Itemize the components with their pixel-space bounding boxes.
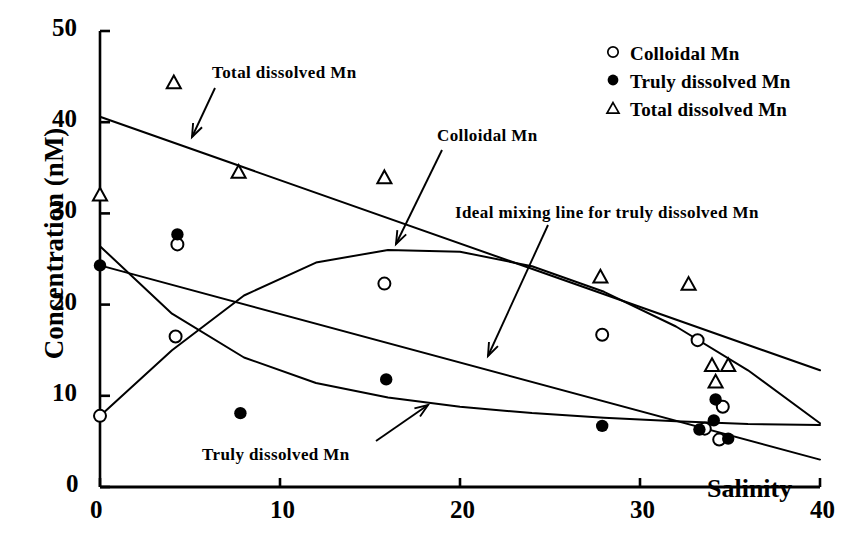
x-tick-label: 0 bbox=[90, 496, 103, 524]
data-point-filled-circle bbox=[709, 393, 721, 405]
open-circle-icon bbox=[596, 44, 630, 64]
data-point-open-triangle bbox=[682, 277, 696, 290]
data-point-filled-circle bbox=[94, 259, 106, 271]
data-point-open-triangle bbox=[709, 375, 723, 388]
y-axis-title: Concentration (nM) bbox=[39, 94, 70, 394]
data-point-open-circle bbox=[378, 278, 390, 290]
x-tick-label: 40 bbox=[810, 496, 835, 524]
data-point-filled-circle bbox=[708, 414, 720, 426]
fit-curve bbox=[100, 117, 820, 371]
legend-item-label: Colloidal Mn bbox=[630, 43, 740, 65]
fit-curves-layer bbox=[100, 117, 820, 460]
data-point-open-circle bbox=[596, 329, 608, 341]
y-tick-label: 20 bbox=[52, 288, 77, 316]
data-point-filled-circle bbox=[380, 373, 392, 385]
data-point-open-circle bbox=[94, 410, 106, 422]
legend-item: Truly dissolved Mn bbox=[596, 68, 791, 96]
x-axis-title: Salinity bbox=[707, 474, 792, 504]
x-tick-label: 20 bbox=[450, 496, 475, 524]
y-tick-label: 40 bbox=[52, 105, 77, 133]
data-point-open-triangle bbox=[93, 188, 107, 201]
y-tick-label: 0 bbox=[66, 470, 79, 498]
annotation-label: Truly dissolved Mn bbox=[202, 445, 350, 465]
annotation-arrow-line bbox=[376, 405, 428, 441]
chart-figure: Concentration (nM) Salinity 010203040010… bbox=[0, 0, 845, 539]
legend-item-label: Total dissolved Mn bbox=[630, 99, 787, 121]
data-point-open-circle bbox=[692, 334, 704, 346]
data-point-filled-circle bbox=[596, 420, 608, 432]
annotation-label: Ideal mixing line for truly dissolved Mn bbox=[455, 203, 759, 223]
legend-item: Colloidal Mn bbox=[596, 40, 791, 68]
data-point-open-triangle bbox=[593, 270, 607, 283]
filled-circle-icon bbox=[596, 72, 630, 92]
legend-item-label: Truly dissolved Mn bbox=[630, 71, 791, 93]
legend-item: Total dissolved Mn bbox=[596, 96, 791, 124]
legend: Colloidal Mn Truly dissolved Mn Total di… bbox=[596, 40, 791, 124]
y-tick-label: 10 bbox=[52, 379, 77, 407]
data-point-open-circle bbox=[170, 331, 182, 343]
data-point-filled-circle bbox=[693, 423, 705, 435]
data-point-filled-circle bbox=[234, 407, 246, 419]
annotation-label: Total dissolved Mn bbox=[212, 63, 357, 83]
data-point-open-triangle bbox=[377, 170, 391, 183]
annotation-arrow-line bbox=[192, 88, 215, 137]
x-tick-label: 30 bbox=[630, 496, 655, 524]
y-tick-label: 30 bbox=[52, 196, 77, 224]
annotation-label: Colloidal Mn bbox=[437, 126, 538, 146]
y-tick-label: 50 bbox=[52, 14, 77, 42]
annotation-arrow-line bbox=[488, 225, 548, 356]
data-point-open-triangle bbox=[167, 76, 181, 89]
data-point-open-triangle bbox=[705, 358, 719, 371]
open-triangle-icon bbox=[596, 100, 630, 120]
data-points-layer bbox=[93, 76, 735, 446]
data-point-filled-circle bbox=[171, 228, 183, 240]
x-tick-label: 10 bbox=[270, 496, 295, 524]
data-point-filled-circle bbox=[722, 432, 734, 444]
